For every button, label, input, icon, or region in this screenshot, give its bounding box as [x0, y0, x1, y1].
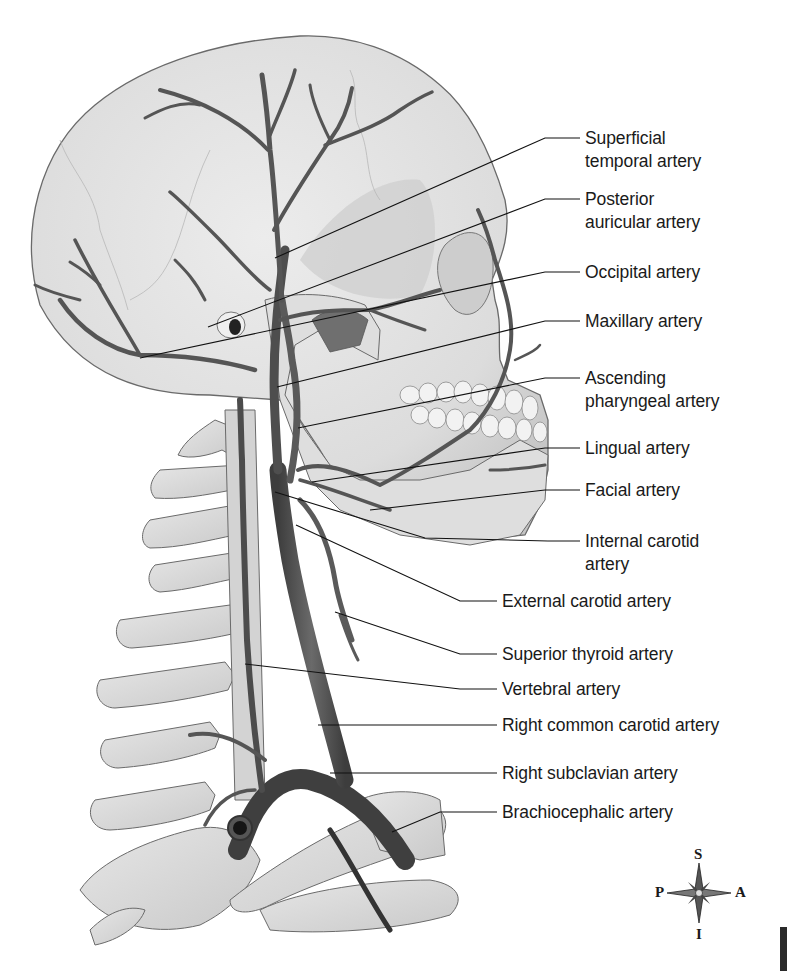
label-occipital-artery: Occipital artery [585, 261, 700, 284]
leader-superior-thyroid [335, 612, 497, 654]
label-external-carotid-artery: External carotid artery [502, 590, 671, 613]
label-right-common-carotid-artery: Right common carotid artery [502, 714, 719, 737]
compass-superior-label: S [694, 846, 702, 863]
leader-vertebral [245, 664, 497, 689]
compass-anterior-label: A [735, 884, 746, 901]
cervical-spine [90, 410, 265, 830]
label-ascending-pharyngeal-artery: Ascending pharyngeal artery [585, 367, 720, 413]
compass-inferior-label: I [696, 926, 702, 943]
compass-rose-icon [667, 863, 731, 923]
label-brachiocephalic-artery: Brachiocephalic artery [502, 801, 673, 824]
compass-posterior-label: P [655, 884, 664, 901]
label-posterior-auricular-artery: Posterior auricular artery [585, 188, 700, 234]
anatomy-figure: Superficial temporal artery Posterior au… [0, 0, 787, 971]
label-maxillary-artery: Maxillary artery [585, 310, 702, 333]
label-superior-thyroid-artery: Superior thyroid artery [502, 643, 673, 666]
label-lingual-artery: Lingual artery [585, 437, 690, 460]
label-internal-carotid-artery: Internal carotid artery [585, 530, 699, 576]
page-edge-tab [780, 927, 787, 971]
label-right-subclavian-artery: Right subclavian artery [502, 762, 678, 785]
label-vertebral-artery: Vertebral artery [502, 678, 620, 701]
label-facial-artery: Facial artery [585, 479, 680, 502]
label-superficial-temporal-artery: Superficial temporal artery [585, 127, 701, 173]
